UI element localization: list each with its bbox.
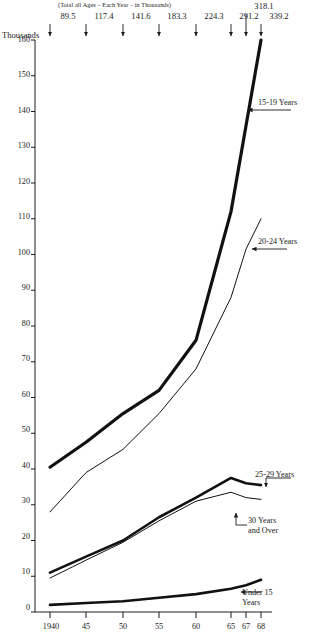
y-axis-ticks: [31, 40, 35, 612]
series-line-15-19: [50, 40, 261, 467]
chart-plot: [0, 0, 309, 639]
totals-arrows: [50, 14, 261, 36]
series-line-30-and-over: [50, 492, 261, 578]
series-annotation-arrows: [236, 110, 291, 592]
series-line-under-15: [50, 580, 261, 605]
annotation-arrow-30-and-over: [236, 513, 247, 525]
chart-container: (Total all Ages – Each Year – in Thousan…: [0, 0, 309, 639]
series-line-20-24: [50, 219, 261, 512]
x-axis-ticks: [50, 612, 261, 618]
axes: [35, 40, 272, 612]
series-lines: [50, 40, 261, 605]
annotation-arrow-25-29: [266, 478, 291, 487]
